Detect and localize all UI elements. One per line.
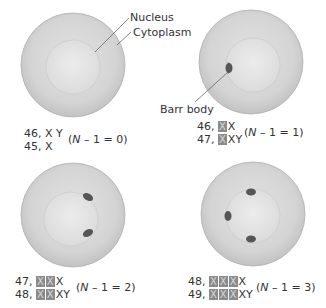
- inactive-x-box: X: [218, 121, 227, 132]
- formula-panel-0: (N – 1 = 0): [68, 133, 128, 146]
- inactive-x-box: X: [36, 276, 45, 287]
- inactive-x-box: X: [36, 289, 45, 300]
- cytoplasm-leader-line: [117, 32, 131, 45]
- chromosome-count: 47,: [15, 275, 33, 288]
- karyotype-line: 46, X Y: [24, 127, 63, 140]
- chromosome-count: 48,: [188, 275, 206, 288]
- inactive-x-box: X: [209, 289, 218, 300]
- inactive-x-box: X: [209, 276, 218, 287]
- active-chromosomes: X: [239, 275, 247, 288]
- formula-n: N: [80, 281, 88, 294]
- karyotype-line: 46, XX: [197, 120, 242, 133]
- nucleus: [226, 38, 280, 92]
- active-chromosomes: XY: [239, 288, 253, 301]
- chromosome-count: 46,: [24, 127, 42, 140]
- inactive-x-box: X: [218, 134, 227, 145]
- inactive-x-box: X: [219, 276, 228, 287]
- barr-body: [246, 189, 256, 196]
- karyotype-line: 45, X: [24, 140, 63, 153]
- barr-body-diagram: Nucleus Cytoplasm Barr body: [0, 0, 326, 308]
- formula-rest: – 1 = 0): [81, 133, 128, 146]
- chromosome-count: 46,: [197, 120, 215, 133]
- cytoplasm-label: Cytoplasm: [133, 26, 191, 39]
- karyotype-panel-0: 46, X Y 45, X: [24, 127, 63, 153]
- chromosome-count: 48,: [15, 288, 33, 301]
- active-chromosomes: X: [56, 275, 64, 288]
- cell-panel-0: [21, 13, 125, 117]
- formula-panel-3: (N – 1 = 3): [256, 281, 316, 294]
- chromosome-count: 47,: [197, 133, 215, 146]
- formula-rest: – 1 = 1): [257, 126, 304, 139]
- formula-n: N: [260, 281, 268, 294]
- formula-panel-2: (N – 1 = 2): [76, 281, 136, 294]
- cell-panel-2: [21, 163, 125, 267]
- nucleus-label: Nucleus: [130, 11, 174, 24]
- inactive-x-box: X: [219, 289, 228, 300]
- chromosome-count: 49,: [188, 288, 206, 301]
- active-chromosomes: X: [228, 120, 236, 133]
- karyotype-line: 47, XXX: [15, 275, 70, 288]
- karyotype-line: 48, XXXY: [15, 288, 70, 301]
- inactive-x-box: X: [46, 289, 55, 300]
- formula-panel-1: (N – 1 = 1): [244, 126, 304, 139]
- active-chromosomes: XY: [56, 288, 70, 301]
- karyotype-line: 49, XXXXY: [188, 288, 253, 301]
- nucleus: [226, 189, 280, 243]
- karyotype-line: 47, XXY: [197, 133, 242, 146]
- active-chromosomes: X: [45, 140, 53, 153]
- karyotype-panel-2: 47, XXX 48, XXXY: [15, 275, 70, 301]
- formula-rest: – 1 = 2): [89, 281, 136, 294]
- inactive-x-box: X: [229, 289, 238, 300]
- formula-rest: – 1 = 3): [269, 281, 316, 294]
- barr-body-label: Barr body: [160, 103, 214, 116]
- cell-panel-3: [201, 162, 305, 266]
- barr-body: [225, 211, 232, 221]
- inactive-x-box: X: [46, 276, 55, 287]
- active-chromosomes: XY: [228, 133, 242, 146]
- karyotype-line: 48, XXXX: [188, 275, 253, 288]
- formula-n: N: [248, 126, 256, 139]
- inactive-x-box: X: [229, 276, 238, 287]
- karyotype-panel-1: 46, XX 47, XXY: [197, 120, 242, 146]
- nucleus: [46, 40, 100, 94]
- karyotype-panel-3: 48, XXXX 49, XXXXY: [188, 275, 253, 301]
- barr-body: [226, 63, 233, 73]
- barr-body: [246, 236, 256, 243]
- formula-n: N: [72, 133, 80, 146]
- chromosome-count: 45,: [24, 140, 42, 153]
- cell-panel-1: [199, 10, 303, 114]
- active-chromosomes: X Y: [45, 127, 63, 140]
